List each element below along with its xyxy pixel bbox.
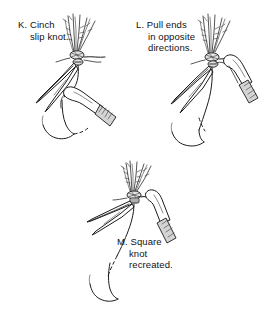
caption-k-line2: slip knot. <box>18 31 69 43</box>
curved-needle-l <box>171 118 205 146</box>
caption-l-line3: directions. <box>136 42 195 54</box>
caption-m-line2: knot <box>117 248 173 260</box>
surgical-knot-figure: K. Cinch slip knot. L. Pull ends in oppo… <box>0 0 276 313</box>
knot-core-l <box>205 53 219 67</box>
caption-m-line1: M. Square <box>117 236 162 247</box>
knot-core-k <box>70 51 84 65</box>
panel-m-illustration <box>87 161 176 301</box>
suture-strands-fan-l <box>198 14 230 54</box>
forceps-tip-left-m <box>87 201 134 235</box>
caption-m: M. Square knot recreated. <box>117 236 173 271</box>
curved-needle-m <box>89 263 118 301</box>
caption-k-line1: K. Cinch <box>18 19 55 30</box>
caption-l-line1: L. Pull ends <box>136 19 187 30</box>
suture-strands-fan-m <box>121 161 151 192</box>
caption-l: L. Pull ends in opposite directions. <box>136 19 195 54</box>
caption-k: K. Cinch slip knot. <box>18 19 69 42</box>
needle-holder-right-l <box>216 55 258 103</box>
caption-l-line2: in opposite <box>136 31 195 43</box>
needle-holder-right-k <box>61 87 116 126</box>
caption-m-line3: recreated. <box>117 259 173 271</box>
